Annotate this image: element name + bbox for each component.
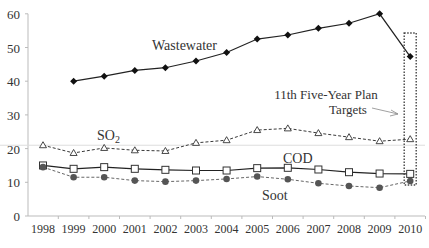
triangle-marker <box>193 139 200 145</box>
square-marker <box>101 164 108 171</box>
annotation-line1: 11th Five-Year Plan <box>274 87 378 102</box>
diamond-marker <box>131 67 138 74</box>
diamond-marker <box>193 57 200 64</box>
y-tick-label: 50 <box>7 41 20 56</box>
square-marker <box>346 169 353 176</box>
circle-marker <box>193 177 200 184</box>
triangle-marker <box>346 134 353 140</box>
x-tick-label: 2009 <box>368 222 392 236</box>
triangle-marker <box>376 138 383 144</box>
y-tick-label: 20 <box>7 142 20 157</box>
circle-marker <box>40 164 47 171</box>
circle-marker <box>132 177 139 184</box>
circle-marker <box>346 183 353 190</box>
x-tick-label: 2008 <box>337 222 361 236</box>
square-marker <box>223 167 230 174</box>
y-tick-label: 40 <box>7 74 20 89</box>
circle-marker <box>376 184 383 191</box>
square-marker <box>407 170 414 177</box>
label-so2: SO2 <box>97 128 120 145</box>
circle-marker <box>407 178 414 185</box>
label-cod: COD <box>283 151 313 166</box>
circle-marker <box>162 178 169 185</box>
x-tick-label: 2000 <box>92 222 116 236</box>
label-so2-sub: 2 <box>115 134 120 145</box>
diamond-marker <box>223 49 230 56</box>
diamond-marker <box>315 25 322 32</box>
y-tick-label: 60 <box>7 7 20 22</box>
series-so2 <box>40 125 414 156</box>
square-marker <box>70 165 77 172</box>
circle-marker <box>223 176 230 183</box>
label-wastewater: Wastewater <box>152 38 217 53</box>
x-tick-label: 2007 <box>306 222 330 236</box>
square-marker <box>131 165 138 172</box>
y-tick-label: 0 <box>14 209 21 224</box>
x-tick-label: 2002 <box>153 222 177 236</box>
square-marker <box>162 166 169 173</box>
circle-marker <box>70 174 77 181</box>
triangle-marker <box>70 149 77 155</box>
label-so2-main: SO <box>97 128 115 143</box>
x-tick-label: 1999 <box>62 222 86 236</box>
series-cod <box>40 162 414 177</box>
circle-marker <box>101 174 108 181</box>
circle-marker <box>315 180 322 187</box>
triangle-marker <box>223 137 230 143</box>
x-tick-label: 1998 <box>31 222 55 236</box>
x-tick-label: 2001 <box>123 222 147 236</box>
square-marker <box>193 167 200 174</box>
label-soot: Soot <box>262 188 288 203</box>
diamond-marker <box>254 36 261 43</box>
diamond-marker <box>101 73 108 80</box>
diamond-marker <box>346 20 353 27</box>
y-tick-label: 10 <box>7 175 20 190</box>
diamond-marker <box>162 64 169 71</box>
x-tick-label: 2006 <box>276 222 300 236</box>
x-tick-label: 2004 <box>215 222 239 236</box>
diamond-marker <box>284 32 291 39</box>
labels: Wastewater SO2 COD Soot 11th Five-Year P… <box>97 38 398 203</box>
annotation-line2: Targets <box>329 102 367 117</box>
x-tick-label: 2010 <box>398 222 422 236</box>
square-marker <box>315 166 322 173</box>
line-chart: 0102030405060199819992000200120022003200… <box>0 0 429 248</box>
circle-marker <box>254 173 261 180</box>
triangle-marker <box>284 125 291 131</box>
x-tick-label: 2005 <box>245 222 269 236</box>
annotation-arrow-icon <box>372 108 398 116</box>
square-marker <box>376 170 383 177</box>
square-marker <box>254 165 261 172</box>
y-tick-label: 30 <box>7 108 20 123</box>
circle-marker <box>285 176 292 183</box>
x-tick-label: 2003 <box>184 222 208 236</box>
series-wastewater <box>70 10 414 84</box>
triangle-marker <box>407 136 414 142</box>
diamond-marker <box>70 78 77 85</box>
